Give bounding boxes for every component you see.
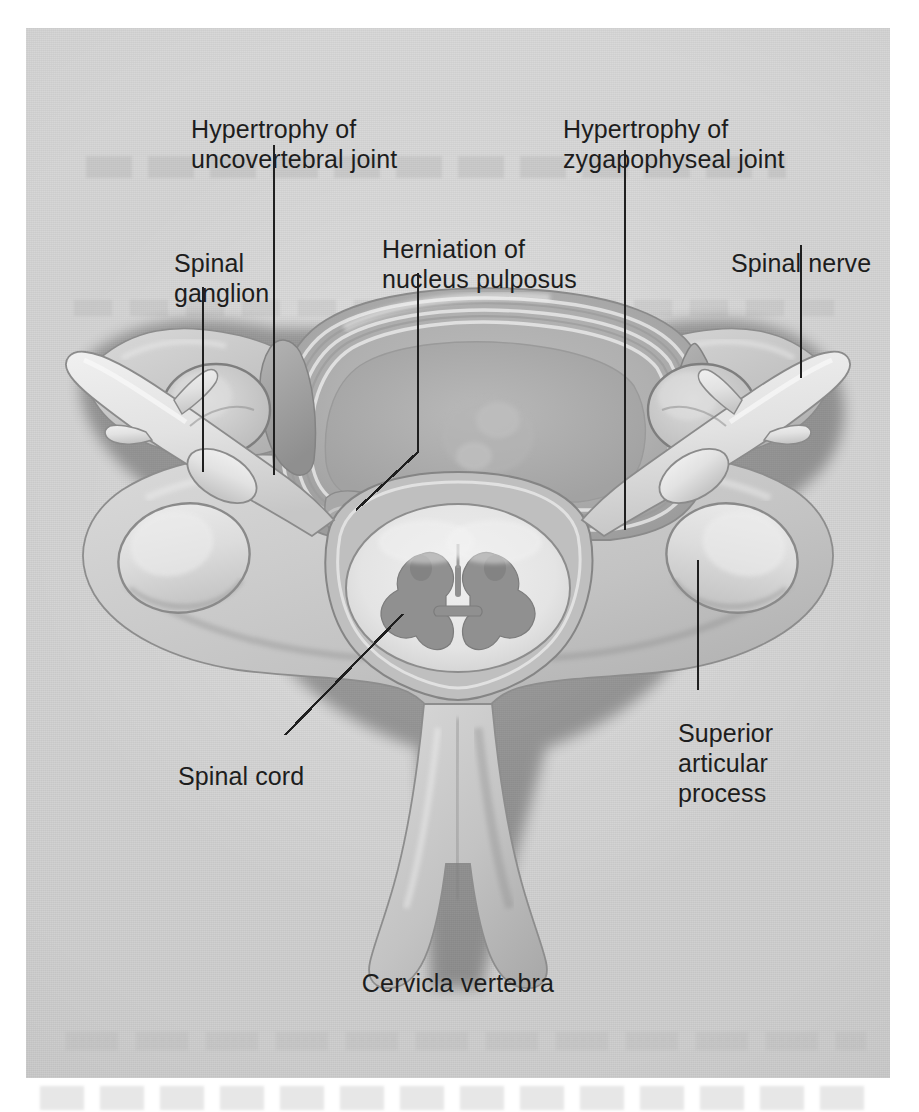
anatomy-illustration [26,28,890,1078]
label-hypertrophy-zygapophyseal-joint: Hypertrophy of zygapophyseal joint [563,114,785,174]
figure-panel: Hypertrophy of uncovertebral joint Hyper… [26,28,890,1078]
spinal-cord-section [346,504,570,672]
label-spinal-nerve: Spinal nerve [731,248,871,278]
margin-showthrough-text [40,1086,870,1110]
label-superior-articular-process: Superior articular process [678,718,773,808]
label-spinal-cord: Spinal cord [178,761,304,791]
label-herniation-nucleus-pulposus: Herniation of nucleus pulposus [382,234,577,294]
label-hypertrophy-uncovertebral-joint: Hypertrophy of uncovertebral joint [191,114,397,174]
label-spinal-ganglion: Spinal ganglion [174,248,269,308]
figure-caption: Cervicla vertebra [26,969,890,998]
